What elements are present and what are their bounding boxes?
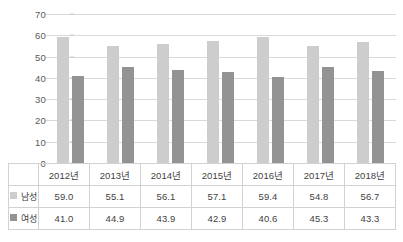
bar-group [95, 0, 145, 163]
bar-female [272, 77, 284, 163]
table-cell-year: 2017년 [294, 164, 345, 186]
table-cell-year: 2012년 [39, 164, 90, 186]
bar-group [195, 0, 245, 163]
table-cell-male-value: 59.4 [243, 186, 294, 208]
table-row-female: 여성 41.044.943.942.940.645.343.3 [9, 208, 396, 230]
bar-female [122, 67, 134, 163]
legend-label-female: 여성 [21, 212, 37, 225]
table-cell-male-value: 59.0 [39, 186, 90, 208]
legend-item-female: 여성 [9, 208, 39, 230]
bars-layer [45, 0, 396, 163]
bar-male [207, 41, 219, 163]
table-cell-female-value: 44.9 [90, 208, 141, 230]
table-cell-male-value: 56.1 [141, 186, 192, 208]
bar-female [72, 76, 84, 163]
table-row-years: 2012년2013년2014년2015년2016년2017년2018년 [9, 164, 396, 186]
table-cell-year: 2015년 [192, 164, 243, 186]
legend-swatch-female-icon [10, 214, 17, 221]
table-corner-cell [9, 164, 39, 186]
table-cell-female-value: 41.0 [39, 208, 90, 230]
data-table-wrap: 2012년2013년2014년2015년2016년2017년2018년 남성 5… [8, 163, 396, 230]
bar-group [246, 0, 296, 163]
bar-group [346, 0, 396, 163]
bar-male [307, 46, 319, 163]
footer-strip [0, 231, 403, 242]
data-table: 2012년2013년2014년2015년2016년2017년2018년 남성 5… [8, 163, 396, 230]
legend-label-male: 남성 [21, 190, 37, 203]
bar-group [45, 0, 95, 163]
legend-swatch-male-icon [10, 192, 17, 199]
table-cell-male-value: 56.7 [345, 186, 396, 208]
bar-female [372, 71, 384, 163]
table-cell-year: 2014년 [141, 164, 192, 186]
table-row-male: 남성 59.055.156.157.159.454.856.7 [9, 186, 396, 208]
bar-group [145, 0, 195, 163]
table-cell-female-value: 40.6 [243, 208, 294, 230]
bar-male [257, 37, 269, 163]
bar-female [222, 72, 234, 163]
table-cell-female-value: 45.3 [294, 208, 345, 230]
bar-male [107, 46, 119, 163]
table-cell-male-value: 54.8 [294, 186, 345, 208]
bar-female [322, 67, 334, 163]
bar-male [357, 42, 369, 163]
legend-item-male: 남성 [9, 186, 39, 208]
table-cell-year: 2018년 [345, 164, 396, 186]
table-cell-male-value: 57.1 [192, 186, 243, 208]
bar-group [296, 0, 346, 163]
bar-chart-with-data-table: 706050403020100 2012년2013년2014년2015년2016… [0, 0, 403, 242]
plot-area: 706050403020100 [0, 0, 403, 170]
table-cell-female-value: 42.9 [192, 208, 243, 230]
bar-female [172, 70, 184, 163]
table-cell-year: 2016년 [243, 164, 294, 186]
bar-male [157, 44, 169, 163]
bar-male [57, 37, 69, 163]
table-cell-female-value: 43.9 [141, 208, 192, 230]
table-cell-male-value: 55.1 [90, 186, 141, 208]
y-axis: 706050403020100 [22, 0, 46, 170]
table-cell-female-value: 43.3 [345, 208, 396, 230]
table-cell-year: 2013년 [90, 164, 141, 186]
